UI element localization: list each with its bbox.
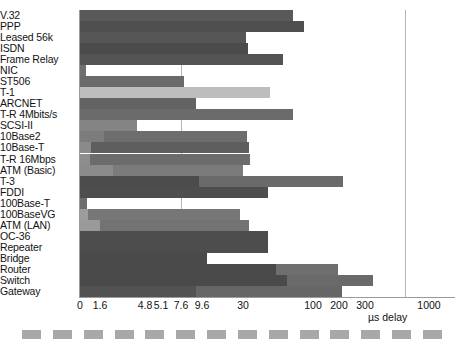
bar-segment <box>80 154 90 165</box>
dash-segment <box>423 330 442 339</box>
bar-segment <box>80 286 196 297</box>
category-label-column: V.32PPPLeased 56kISDNFrame RelayNICST506… <box>0 10 76 297</box>
category-label: 100Base-T <box>0 198 74 209</box>
category-label: Router <box>0 264 74 275</box>
bar-segment <box>80 275 287 286</box>
category-label: ATM (LAN) <box>0 220 74 231</box>
bar-segment <box>80 109 293 120</box>
category-label: T-3 <box>0 176 74 187</box>
bar-segment <box>104 131 247 142</box>
bar-segment <box>80 242 268 253</box>
dash-segment <box>207 330 226 339</box>
x-tick-label: 200 <box>330 299 348 311</box>
bar-segment <box>80 131 104 142</box>
bar-segment <box>80 187 268 198</box>
category-label: Frame Relay <box>0 54 74 65</box>
category-label: ISDN <box>0 43 74 54</box>
bar-segment <box>80 176 199 187</box>
category-label: Leased 56k <box>0 32 74 43</box>
bar-segment <box>80 21 304 32</box>
category-label: Bridge <box>0 253 74 264</box>
bar-segment <box>90 154 250 165</box>
category-label: Switch <box>0 275 74 286</box>
x-tick-label: 9.6 <box>195 299 210 311</box>
category-label: T-1 <box>0 87 74 98</box>
x-tick-label: 0 <box>77 299 83 311</box>
bar-segment <box>80 165 113 176</box>
category-label: FDDI <box>0 187 74 198</box>
bar-segment <box>100 220 249 231</box>
x-tick-label: 30 <box>237 299 249 311</box>
x-tick-label: 7.6 <box>174 299 189 311</box>
bar-segment <box>113 165 243 176</box>
category-label: ST506 <box>0 76 74 87</box>
bar-segment <box>91 142 249 153</box>
dash-segment <box>53 330 72 339</box>
bar-segment <box>199 176 343 187</box>
category-label: Gateway <box>0 286 74 297</box>
bar-segment <box>80 32 246 43</box>
bar-segment <box>196 286 342 297</box>
bar-segment <box>287 275 373 286</box>
x-tick-label: 100 <box>304 299 322 311</box>
dash-segment <box>300 330 319 339</box>
category-label: Repeater <box>0 242 74 253</box>
bar-segment <box>80 98 196 109</box>
bar-segment <box>80 264 276 275</box>
x-tick-label: 1000 <box>417 299 440 311</box>
category-label: PPP <box>0 21 74 32</box>
bar-segment <box>88 209 240 220</box>
dash-segment <box>238 330 257 339</box>
plot-area <box>80 10 455 297</box>
dash-segment <box>392 330 411 339</box>
dash-segment <box>269 330 288 339</box>
category-label: V.32 <box>0 10 74 21</box>
x-tick-label: 5.1 <box>154 299 169 311</box>
dash-segment <box>176 330 195 339</box>
horizontal-bar-chart: V.32PPPLeased 56kISDNFrame RelayNICST506… <box>0 0 455 345</box>
bar-segment <box>80 65 86 76</box>
bar-segment <box>80 76 184 87</box>
x-tick-label: 1.6 <box>93 299 108 311</box>
bar-segment <box>80 220 100 231</box>
gridline-1000 <box>405 10 406 297</box>
bar-segment <box>80 43 248 54</box>
dash-segment <box>115 330 134 339</box>
bar-segment <box>80 120 137 131</box>
dash-segment <box>22 330 41 339</box>
bar-segment <box>276 264 338 275</box>
bar-segment <box>80 231 268 242</box>
bar-segment <box>80 142 91 153</box>
decorative-dashed-rule <box>22 330 442 339</box>
category-label: SCSI-II <box>0 120 74 131</box>
category-label: T-R 16Mbps <box>0 154 74 165</box>
category-label: 10Base2 <box>0 131 74 142</box>
x-tick-label: 4.8 <box>138 299 153 311</box>
x-axis-line <box>79 297 455 298</box>
dash-segment <box>361 330 380 339</box>
bar-segment <box>80 198 87 209</box>
category-label: ATM (Basic) <box>0 165 74 176</box>
category-label: 10Base-T <box>0 142 74 153</box>
dash-segment <box>330 330 349 339</box>
category-label: T-R 4Mbits/s <box>0 109 74 120</box>
dash-segment <box>84 330 103 339</box>
x-tick-label: 300 <box>356 299 374 311</box>
x-axis-title: µs delay <box>368 311 407 323</box>
category-label: ARCNET <box>0 98 74 109</box>
bar-segment <box>80 209 88 220</box>
bar-segment <box>80 54 283 65</box>
dash-segment <box>145 330 164 339</box>
bar-segment <box>80 10 293 21</box>
y-axis-line <box>79 10 80 298</box>
bar-segment <box>80 253 207 264</box>
category-label: NIC <box>0 65 74 76</box>
bar-segment <box>80 87 270 98</box>
category-label: 100BaseVG <box>0 209 74 220</box>
category-label: OC-36 <box>0 231 74 242</box>
